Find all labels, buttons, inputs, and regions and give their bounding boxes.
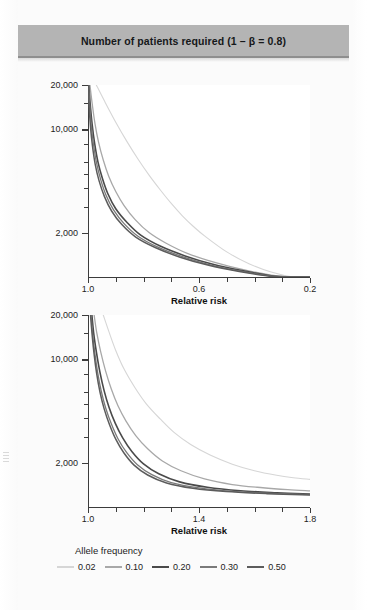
- series-line-0.02: [96, 85, 310, 277]
- curves-top: [18, 62, 349, 307]
- legend-swatch-line: [247, 566, 264, 568]
- legend-item[interactable]: 0.10: [105, 562, 144, 572]
- legend: Allele frequency 0.020.100.200.300.50: [18, 545, 349, 590]
- series-line-0.20: [92, 315, 310, 494]
- legend-swatch-line: [200, 566, 217, 567]
- legend-label: 0.02: [78, 562, 96, 572]
- legend-label: 0.10: [126, 562, 144, 572]
- legend-label: 0.20: [173, 562, 191, 572]
- chart-panel-top: 2,00010,00020,0001.00.60.2 Relative risk: [18, 62, 349, 307]
- series-line-0.50: [91, 315, 311, 495]
- figure-title: Number of patients required (1 – β = 0.8…: [81, 35, 286, 47]
- series-line-0.30: [91, 315, 310, 495]
- scan-right-edge: [353, 0, 367, 610]
- legend-label: 0.50: [268, 562, 286, 572]
- legend-item[interactable]: 0.20: [152, 562, 191, 572]
- legend-swatch-line: [57, 566, 74, 567]
- series-line-0.30: [89, 85, 310, 277]
- legend-items: 0.020.100.200.300.50: [57, 562, 286, 572]
- curves-bottom: [18, 295, 349, 540]
- scan-left-edge: [0, 0, 18, 610]
- series-line-0.10: [90, 85, 310, 277]
- figure-container: Number of patients required (1 – β = 0.8…: [0, 0, 367, 610]
- legend-item[interactable]: 0.02: [57, 562, 96, 572]
- series-line-0.20: [89, 85, 310, 277]
- legend-label: 0.30: [221, 562, 239, 572]
- legend-title: Allele frequency: [75, 545, 143, 556]
- legend-swatch-line: [105, 566, 122, 567]
- legend-item[interactable]: 0.50: [247, 562, 286, 572]
- chart-panel-bottom: 2,00010,00020,0001.01.41.8 Relative risk: [18, 295, 349, 540]
- scan-artifact: [3, 452, 9, 462]
- legend-item[interactable]: 0.30: [200, 562, 239, 572]
- series-line-0.50: [88, 85, 310, 277]
- legend-swatch-line: [152, 566, 169, 568]
- series-line-0.10: [94, 315, 310, 491]
- x-axis-title-bottom: Relative risk: [171, 525, 227, 536]
- figure-title-banner: Number of patients required (1 – β = 0.8…: [18, 25, 349, 58]
